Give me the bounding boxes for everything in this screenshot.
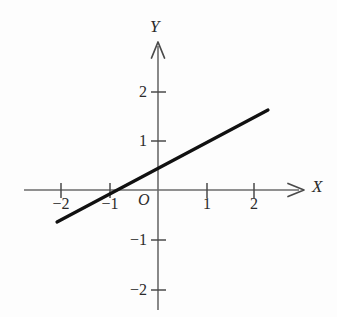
y-tick-label--2: −2 <box>116 282 150 298</box>
x-tick-label--2: −2 <box>46 196 76 212</box>
x-tick-label-1: 1 <box>192 196 222 212</box>
coordinate-plot <box>0 0 337 317</box>
origin-label: O <box>138 192 150 208</box>
y-tick-label-2: 2 <box>116 84 150 100</box>
plotted-line <box>57 110 268 222</box>
y-tick-label-1: 1 <box>116 133 150 149</box>
graph-figure: X Y O −2 −1 1 2 2 1 −1 −2 <box>0 0 337 317</box>
y-axis-label: Y <box>150 18 159 35</box>
x-axis-label: X <box>312 178 322 195</box>
x-tick-label-2: 2 <box>239 196 269 212</box>
x-tick-label--1: −1 <box>95 196 125 212</box>
y-tick-label--1: −1 <box>116 232 150 248</box>
